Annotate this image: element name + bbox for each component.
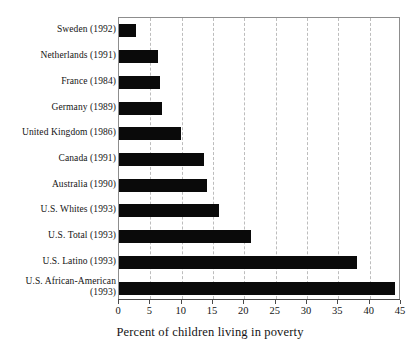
gridline [370, 18, 371, 299]
bar [119, 282, 395, 295]
tick-mark [400, 300, 401, 304]
tick-mark [118, 300, 119, 304]
tick-label: 15 [197, 305, 227, 316]
category-label: U.S. Total (1993) [0, 230, 116, 241]
category-label: Germany (1989) [0, 102, 116, 113]
tick-mark [337, 300, 338, 304]
tick-mark [275, 300, 276, 304]
tick-label: 45 [385, 305, 415, 316]
poverty-bar-chart: Sweden (1992)Netherlands (1991)France (1… [0, 0, 420, 354]
tick-mark [212, 300, 213, 304]
tick-mark [181, 300, 182, 304]
bar [119, 153, 204, 166]
x-axis-title: Percent of children living in poverty [0, 325, 420, 340]
tick-mark [149, 300, 150, 304]
bar [119, 256, 357, 269]
category-label: United Kingdom (1986) [0, 127, 116, 138]
category-label: Sweden (1992) [0, 24, 116, 35]
category-label: Australia (1990) [0, 179, 116, 190]
tick-label: 0 [103, 305, 133, 316]
bar [119, 204, 219, 217]
plot-area [118, 17, 400, 300]
bar [119, 76, 160, 89]
tick-mark [306, 300, 307, 304]
tick-label: 10 [166, 305, 196, 316]
category-label: Canada (1991) [0, 153, 116, 164]
category-axis-labels: Sweden (1992)Netherlands (1991)France (1… [0, 17, 116, 300]
tick-label: 5 [134, 305, 164, 316]
category-label: France (1984) [0, 76, 116, 87]
bar [119, 179, 207, 192]
bar [119, 102, 162, 115]
tick-label: 35 [322, 305, 352, 316]
category-label: U.S. African-American (1993) [0, 276, 116, 298]
tick-mark [243, 300, 244, 304]
bar [119, 127, 181, 140]
bar [119, 230, 251, 243]
category-label: U.S. Latino (1993) [0, 256, 116, 267]
bar [119, 50, 158, 63]
bar [119, 24, 136, 37]
tick-label: 40 [354, 305, 384, 316]
category-label: Netherlands (1991) [0, 50, 116, 61]
tick-label: 20 [228, 305, 258, 316]
tick-mark [369, 300, 370, 304]
tick-label: 30 [291, 305, 321, 316]
category-label: U.S. Whites (1993) [0, 204, 116, 215]
x-axis-line [118, 299, 400, 300]
tick-label: 25 [260, 305, 290, 316]
